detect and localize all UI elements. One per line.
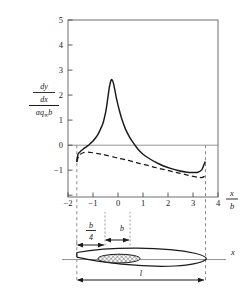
dim-b-label: b xyxy=(120,224,124,233)
y-tick-0: 0 xyxy=(59,140,63,150)
y-tick-2: 2 xyxy=(59,90,63,100)
x-label-numerator: x xyxy=(229,188,234,198)
y-label-dy: dy xyxy=(40,82,48,91)
x-tick-3: 3 xyxy=(191,198,195,208)
figure-container: 5 4 3 2 1 0 −1 dy dx αq∞b −2 −1 0 1 xyxy=(0,0,248,295)
x-tick-neg2: −2 xyxy=(63,198,72,208)
x-axis-ticks xyxy=(68,193,218,198)
x-tick-labels: −2 −1 0 1 2 3 4 xyxy=(63,198,220,208)
y-axis-label: dy dx αq∞b xyxy=(29,82,59,118)
dim-b-over-4: b 4 xyxy=(77,212,105,246)
dim-b4-numerator: b xyxy=(89,221,93,230)
dim-l-label: l xyxy=(140,268,143,278)
airfoil-upper-surface xyxy=(77,248,207,259)
y-tick-1: 1 xyxy=(59,115,63,125)
airfoil-lower-surface xyxy=(77,257,207,266)
y-tick-5: 5 xyxy=(59,15,63,25)
vertical-guides xyxy=(77,145,206,283)
solid-curve xyxy=(77,80,206,173)
y-tick-3: 3 xyxy=(59,65,63,75)
y-tick-labels: 5 4 3 2 1 0 −1 xyxy=(54,15,64,175)
y-label-dx: dx xyxy=(40,95,48,104)
figure-svg: 5 4 3 2 1 0 −1 dy dx αq∞b −2 −1 0 1 xyxy=(0,0,248,295)
y-tick-4: 4 xyxy=(59,40,64,50)
x-label-denominator: b xyxy=(230,201,234,211)
y-tick-neg1: −1 xyxy=(54,165,63,175)
plot-frame xyxy=(68,20,218,197)
dim-b4-denominator: 4 xyxy=(89,233,93,242)
x-axis-label: x b xyxy=(226,188,238,211)
dashed-curve xyxy=(77,152,206,177)
dim-b: b xyxy=(106,212,130,246)
x-tick-0: 0 xyxy=(116,198,120,208)
y-axis-ticks xyxy=(68,20,73,195)
x-tick-4: 4 xyxy=(216,198,221,208)
x-tick-neg1: −1 xyxy=(88,198,97,208)
hatched-region xyxy=(98,254,140,263)
y-label-denominator: αq∞b xyxy=(36,108,52,118)
x-tick-1: 1 xyxy=(141,198,145,208)
airfoil-schematic: x b 4 b l xyxy=(62,212,235,280)
schematic-x-label: x xyxy=(230,247,235,257)
dim-length-l: l xyxy=(78,268,204,280)
x-tick-2: 2 xyxy=(166,198,170,208)
